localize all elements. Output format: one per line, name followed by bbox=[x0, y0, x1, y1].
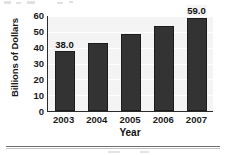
bar-2004[interactable] bbox=[88, 43, 108, 111]
bar-slot: 38.0 bbox=[48, 16, 81, 111]
y-tick-label: 60 bbox=[22, 11, 44, 21]
bar-slot bbox=[114, 16, 147, 111]
bar-2003[interactable] bbox=[55, 51, 75, 111]
bar-series: 38.0 59.0 bbox=[48, 16, 213, 111]
y-tick-label: 10 bbox=[22, 91, 44, 101]
bar-chart-figure: Billions of Dollars 60 50 40 30 20 10 0 … bbox=[0, 4, 226, 144]
y-axis-title: Billions of Dollars bbox=[9, 3, 20, 113]
plot-area: 38.0 59.0 bbox=[47, 16, 213, 112]
x-axis-tick-labels: 2003 2004 2005 2006 2007 bbox=[47, 114, 213, 125]
x-tick-label-2006: 2006 bbox=[147, 114, 180, 125]
x-tick-label-2005: 2005 bbox=[113, 114, 146, 125]
y-tick-label: 0 bbox=[22, 107, 44, 117]
bar-2005[interactable] bbox=[121, 34, 141, 111]
x-tick-label-2007: 2007 bbox=[180, 114, 213, 125]
y-tick-label: 30 bbox=[22, 59, 44, 69]
y-axis-tick-labels: 60 50 40 30 20 10 0 bbox=[22, 16, 44, 112]
bar-2007[interactable] bbox=[187, 18, 207, 111]
cropped-caption-artifact bbox=[108, 151, 120, 153]
x-tick-label-2004: 2004 bbox=[80, 114, 113, 125]
bar-value-label: 59.0 bbox=[186, 5, 207, 16]
horizontal-rule-shadow bbox=[6, 148, 220, 149]
y-tick-label: 50 bbox=[22, 27, 44, 37]
bar-slot bbox=[147, 16, 180, 111]
y-tick-label: 40 bbox=[22, 43, 44, 53]
bar-value-label: 38.0 bbox=[54, 39, 75, 50]
bar-slot bbox=[81, 16, 114, 111]
cropped-caption-artifact bbox=[140, 151, 149, 153]
x-tick-label-2003: 2003 bbox=[47, 114, 80, 125]
x-axis-title: Year bbox=[47, 127, 213, 138]
bar-2006[interactable] bbox=[154, 26, 174, 111]
bar-slot: 59.0 bbox=[180, 16, 213, 111]
y-tick-label: 20 bbox=[22, 75, 44, 85]
